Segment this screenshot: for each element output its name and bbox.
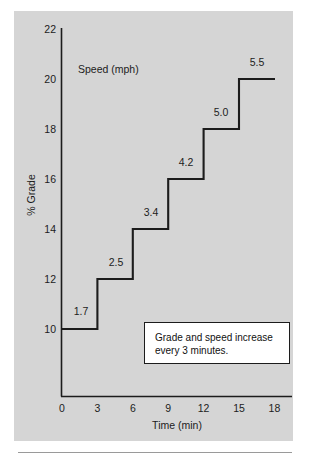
data-label-speed-3: 3.4 <box>136 206 166 218</box>
data-label-speed-6: 5.5 <box>242 56 272 68</box>
x-tick-label-3: 3 <box>85 402 109 414</box>
step-series-line <box>62 79 275 329</box>
x-tick-label-9: 9 <box>156 402 180 414</box>
y-tick-label-10: 10 <box>26 323 56 335</box>
annotation-line-2: every 3 minutes. <box>155 345 228 356</box>
y-tick-label-12: 12 <box>26 273 56 285</box>
data-label-speed-2: 2.5 <box>101 256 131 268</box>
annotation-text: Grade and speed increase every 3 minutes… <box>155 332 285 357</box>
data-label-speed-5: 5.0 <box>206 106 236 118</box>
x-tick-label-6: 6 <box>121 402 145 414</box>
data-label-speed-4: 4.2 <box>171 156 201 168</box>
x-tick-label-15: 15 <box>227 402 251 414</box>
y-axis-title: % Grade <box>25 160 37 230</box>
chart-figure-panel: 10 12 14 16 18 20 22 % Grade 0 3 6 9 12 … <box>14 11 293 441</box>
bottom-divider <box>18 452 292 453</box>
annotation-line-1: Grade and speed increase <box>155 332 273 343</box>
annotation-box: Grade and speed increase every 3 minutes… <box>144 322 290 364</box>
x-tick-label-18: 18 <box>262 402 286 414</box>
series-label-speed: Speed (mph) <box>78 63 139 75</box>
y-tick-label-22: 22 <box>26 23 56 35</box>
y-tick-label-18: 18 <box>26 123 56 135</box>
x-tick-label-0: 0 <box>50 402 74 414</box>
x-axis-title: Time (min) <box>62 419 292 431</box>
x-tick-label-12: 12 <box>192 402 216 414</box>
data-label-speed-1: 1.7 <box>66 305 96 317</box>
y-tick-label-20: 20 <box>26 73 56 85</box>
